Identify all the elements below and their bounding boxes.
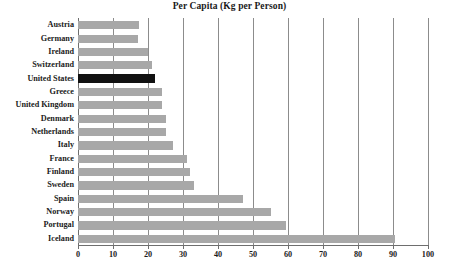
bar-switzerland (78, 61, 152, 69)
bar-row (78, 98, 428, 111)
x-tick-label: 50 (238, 250, 268, 259)
y-axis-category-labels: AustriaGermanyIrelandSwitzerlandUnited S… (0, 18, 74, 245)
x-tick-label: 60 (273, 250, 303, 259)
bar-denmark (78, 115, 166, 123)
bar-row (78, 18, 428, 31)
tick-mark-40 (218, 245, 219, 249)
bar-norway (78, 208, 271, 216)
x-tick-label: 0 (63, 250, 93, 259)
bar-greece (78, 88, 162, 96)
x-tick-label: 90 (378, 250, 408, 259)
gridline-100 (428, 18, 429, 245)
category-label-austria: Austria (48, 20, 74, 29)
bar-row (78, 71, 428, 84)
tick-mark-60 (288, 245, 289, 249)
tick-mark-10 (113, 245, 114, 249)
bar-iceland (78, 235, 395, 243)
bar-row (78, 58, 428, 71)
tick-mark-90 (393, 245, 394, 249)
x-tick-label: 30 (168, 250, 198, 259)
bar-row (78, 85, 428, 98)
bar-row (78, 125, 428, 138)
bar-row (78, 165, 428, 178)
category-label-italy: Italy (58, 140, 74, 149)
bar-france (78, 155, 187, 163)
category-label-united-kingdom: United Kingdom (16, 100, 74, 109)
tick-mark-70 (323, 245, 324, 249)
category-label-norway: Norway (46, 207, 74, 216)
category-label-portugal: Portugal (44, 220, 74, 229)
category-label-sweden: Sweden (47, 180, 74, 189)
category-label-france: France (49, 154, 74, 163)
bar-row (78, 152, 428, 165)
x-tick-label: 10 (98, 250, 128, 259)
bar-row (78, 192, 428, 205)
x-tick-label: 80 (343, 250, 373, 259)
category-label-denmark: Denmark (41, 114, 74, 123)
bar-row (78, 31, 428, 44)
bar-united-states (78, 74, 155, 83)
bar-row (78, 218, 428, 231)
x-tick-label: 100 (413, 250, 443, 259)
x-tick-label: 40 (203, 250, 233, 259)
category-label-germany: Germany (41, 34, 74, 43)
bar-spain (78, 195, 243, 203)
bar-austria (78, 21, 139, 29)
bar-row (78, 138, 428, 151)
bar-germany (78, 35, 138, 43)
category-label-switzerland: Switzerland (32, 60, 74, 69)
bar-italy (78, 141, 173, 149)
category-label-greece: Greece (50, 87, 74, 96)
plot-area (78, 18, 428, 245)
tick-mark-30 (183, 245, 184, 249)
bar-united-kingdom (78, 101, 162, 109)
chart-title: Per Capita (Kg per Person) (0, 1, 459, 11)
category-label-ireland: Ireland (48, 47, 74, 56)
bar-row (78, 232, 428, 245)
tick-mark-50 (253, 245, 254, 249)
bar-portugal (78, 221, 286, 229)
category-label-netherlands: Netherlands (31, 127, 74, 136)
category-label-spain: Spain (54, 194, 74, 203)
bar-chart: Per Capita (Kg per Person) AustriaGerman… (0, 0, 459, 268)
category-label-finland: Finland (47, 167, 74, 176)
x-tick-label: 20 (133, 250, 163, 259)
tick-mark-0 (78, 245, 79, 249)
x-tick-label: 70 (308, 250, 338, 259)
tick-mark-100 (428, 245, 429, 249)
bar-row (78, 45, 428, 58)
bar-finland (78, 168, 190, 176)
category-label-united-states: United States (27, 74, 74, 83)
bar-row (78, 111, 428, 124)
bar-ireland (78, 48, 148, 56)
tick-mark-80 (358, 245, 359, 249)
bar-row (78, 205, 428, 218)
tick-mark-20 (148, 245, 149, 249)
category-label-iceland: Iceland (48, 234, 74, 243)
bar-netherlands (78, 128, 166, 136)
bar-row (78, 178, 428, 191)
bar-sweden (78, 181, 194, 189)
